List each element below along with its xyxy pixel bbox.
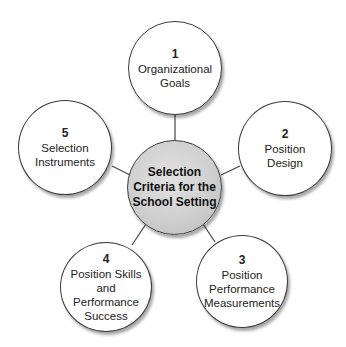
node-position-design: 2 Position Design: [238, 101, 332, 196]
node-organizational-goals: 1 Organizational Goals: [128, 21, 222, 115]
node-label: Position Performance Measurements: [204, 268, 280, 310]
node-number: 2: [282, 127, 289, 142]
node-number: 3: [239, 253, 246, 268]
central-node: Selection Criteria for the School Settin…: [127, 140, 222, 235]
node-label: Organizational Goals: [138, 62, 212, 90]
node-label: Selection Instruments: [35, 141, 95, 169]
node-position-performance-measurements: 3 Position Performance Measurements: [196, 235, 288, 328]
node-number: 1: [172, 47, 179, 62]
node-number: 4: [103, 252, 110, 267]
central-node-label: Selection Criteria for the School Settin…: [133, 165, 217, 210]
node-number: 5: [62, 126, 69, 141]
node-selection-instruments: 5 Selection Instruments: [18, 100, 112, 195]
node-position-skills-performance-success: 4 Position Skills and Performance Succes…: [60, 242, 152, 332]
node-label: Position Design: [265, 142, 306, 170]
node-label: Position Skills and Performance Success: [61, 267, 151, 323]
